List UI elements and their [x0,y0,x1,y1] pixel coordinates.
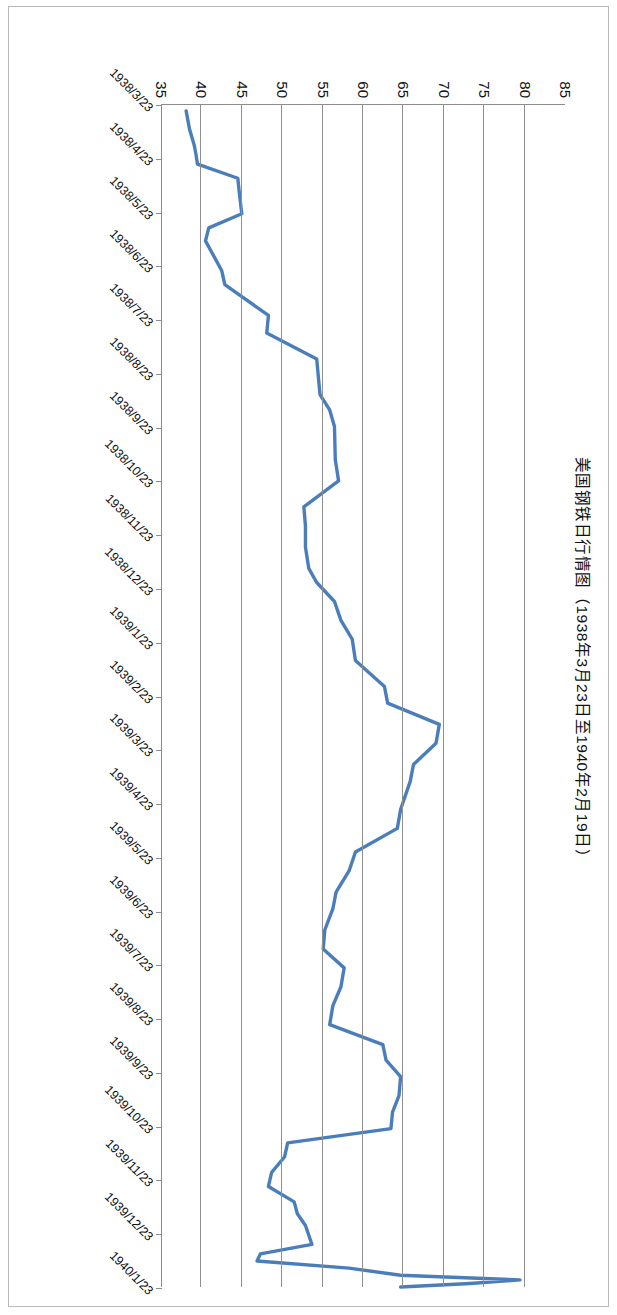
value-gridline [442,105,443,1287]
y-axis-tick-label: 45 [233,81,250,98]
y-axis-tick-label: 80 [516,81,533,98]
x-axis-tick-label: 1938/10/23 [101,437,155,491]
x-axis-tick-label: 1939/5/23 [106,818,155,867]
y-axis-tick-label: 60 [354,81,371,98]
x-axis-tick-label: 1938/3/23 [106,65,155,114]
x-axis-tick-label: 1939/11/23 [102,1136,155,1189]
x-axis-tick-mark [156,158,162,159]
x-axis-tick-label: 1939/6/23 [106,872,155,921]
rotated-chart-stage: 美国钢铁日行情图（1938年3月23日至1940年2月19日） 85807570… [99,26,599,1296]
x-axis-tick-mark [156,212,162,213]
x-axis-tick-mark [156,266,162,267]
value-gridline [240,105,241,1287]
x-axis-tick-mark [156,857,162,858]
x-axis-tick-mark [156,911,162,912]
value-gridline [321,105,322,1287]
x-axis-tick-mark [156,373,162,374]
x-axis-tick-label: 1939/7/23 [106,926,155,975]
y-axis-tick-label: 55 [314,81,331,98]
x-axis-tick-mark [156,1288,162,1289]
x-axis-tick-label: 1938/4/23 [106,119,155,168]
x-axis-tick-mark [156,1072,162,1073]
value-gridline [281,105,282,1287]
x-axis-tick-label: 1938/12/23 [101,544,155,598]
x-axis-tick-label: 1938/6/23 [106,226,155,275]
value-gridline [483,105,484,1287]
series-line-path [186,110,520,1286]
y-axis-tick-label: 75 [475,81,492,98]
x-axis-tick-mark [156,804,162,805]
y-axis-tick-label: 70 [435,81,452,98]
x-axis-tick-label: 1938/9/23 [106,388,155,437]
value-gridline [200,105,201,1287]
price-line-series [162,105,565,1287]
x-axis-tick-label: 1938/8/23 [106,334,155,383]
x-axis-tick-label: 1939/1/23 [106,603,155,652]
value-gridline [523,105,524,1287]
x-axis-tick-label: 1939/10/23 [101,1082,155,1136]
x-axis-tick-mark [156,588,162,589]
x-axis-tick-mark [156,535,162,536]
x-axis-tick-mark [156,1126,162,1127]
x-axis-tick-mark [156,1234,162,1235]
plot-area: 85807570656055504540351938/3/231938/4/23… [161,104,565,1287]
x-axis-tick-mark [156,1019,162,1020]
value-gridline [362,105,363,1287]
x-axis-tick-mark [156,481,162,482]
x-axis-tick-mark [156,1180,162,1181]
y-axis-tick-label: 50 [273,81,290,98]
x-axis-tick-label: 1939/3/23 [106,710,155,759]
y-axis-tick-label: 85 [556,81,573,98]
x-axis-tick-label: 1938/7/23 [106,280,155,329]
x-axis-tick-mark [156,642,162,643]
x-axis-tick-mark [156,750,162,751]
chart-title: 美国钢铁日行情图（1938年3月23日至1940年2月19日） [573,26,595,1296]
x-axis-tick-label: 1938/11/23 [102,491,155,544]
x-axis-tick-label: 1939/2/23 [106,657,155,706]
x-axis-tick-mark [156,320,162,321]
x-axis-tick-label: 1939/8/23 [106,979,155,1028]
x-axis-tick-label: 1939/4/23 [106,764,155,813]
x-axis-tick-label: 1938/5/23 [106,173,155,222]
scanned-page-frame: 美国钢铁日行情图（1938年3月23日至1940年2月19日） 85807570… [8,6,609,1307]
x-axis-tick-mark [156,696,162,697]
y-axis-tick-label: 40 [192,81,209,98]
x-axis-tick-label: 1939/12/23 [101,1189,155,1243]
x-axis-tick-label: 1940/1/23 [106,1248,155,1297]
y-axis-tick-label: 65 [394,81,411,98]
x-axis-tick-mark [156,965,162,966]
y-axis-tick-label: 35 [152,81,169,98]
x-axis-tick-mark [156,427,162,428]
x-axis-tick-label: 1939/9/23 [106,1033,155,1082]
x-axis-tick-mark [156,105,162,106]
value-gridline [402,105,403,1287]
